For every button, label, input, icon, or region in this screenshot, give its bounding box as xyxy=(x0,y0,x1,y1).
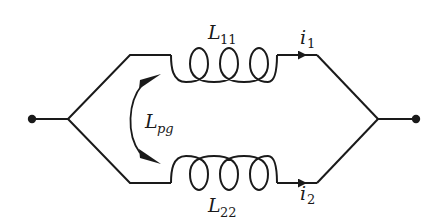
circuit-diagram: L 11 L 22 i 1 i 2 L pg xyxy=(0,0,444,223)
label-L11-sub: 11 xyxy=(220,32,237,47)
top-right-wire xyxy=(317,55,378,119)
label-Lpg-main: L xyxy=(144,110,158,132)
label-Lpg: L pg xyxy=(144,110,174,136)
label-i2: i 2 xyxy=(300,182,315,207)
right-terminal-dot xyxy=(412,115,420,123)
label-i1: i 1 xyxy=(300,26,315,51)
label-i1-sub: 1 xyxy=(307,36,315,51)
label-Lpg-sub: pg xyxy=(157,121,174,136)
label-L11-main: L xyxy=(207,21,221,43)
bottom-right-wire xyxy=(317,119,378,183)
label-i2-main: i xyxy=(300,182,306,204)
label-L22-main: L xyxy=(207,194,221,216)
label-L22-sub: 22 xyxy=(220,205,237,220)
inductor-L22-coil xyxy=(171,156,277,190)
mutual-inductance-arc xyxy=(130,85,142,153)
mutual-arrowhead-bottom-icon xyxy=(139,149,161,164)
label-i1-main: i xyxy=(300,26,306,48)
label-L11: L 11 xyxy=(207,21,237,47)
inductor-L11-coil xyxy=(171,48,277,82)
mutual-arrowhead-top-icon xyxy=(139,74,161,89)
label-L22: L 22 xyxy=(207,194,237,220)
label-i2-sub: 2 xyxy=(307,192,315,207)
